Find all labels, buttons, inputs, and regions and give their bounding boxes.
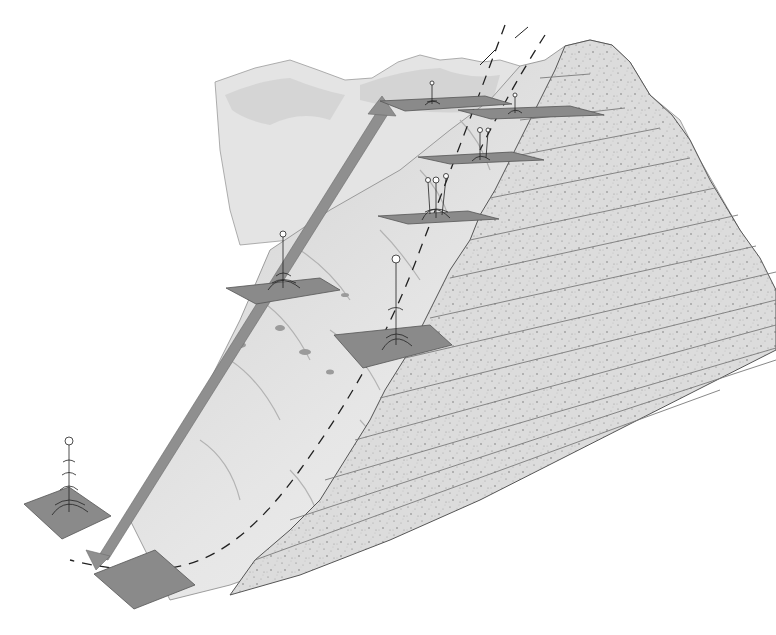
plot-stanford-exp1 — [24, 487, 111, 539]
exp2-leader-line — [515, 27, 528, 38]
yarrow-experiment-figure — [0, 0, 776, 635]
mountain-illustration — [0, 0, 776, 635]
